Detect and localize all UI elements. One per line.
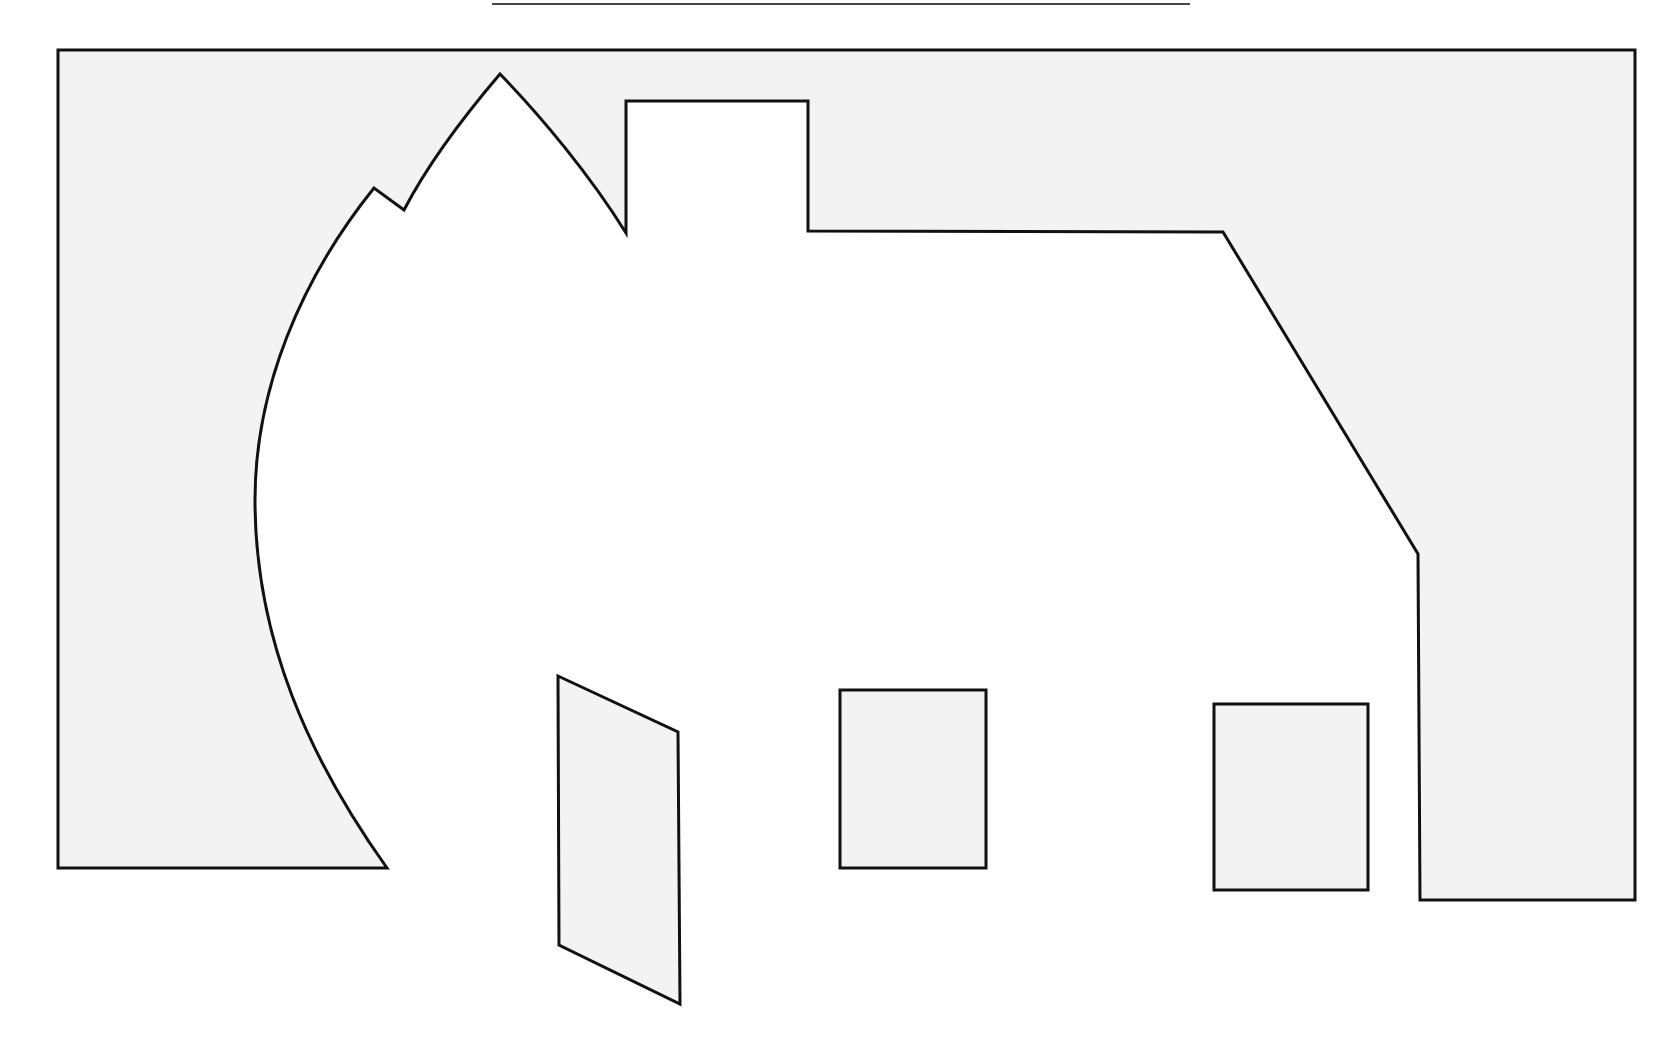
window-right-shape — [1214, 704, 1368, 890]
door-shape — [558, 676, 680, 1004]
drawing-svg — [0, 0, 1667, 1058]
window-left-shape — [840, 690, 986, 868]
house-silhouette-diagram — [0, 0, 1667, 1058]
